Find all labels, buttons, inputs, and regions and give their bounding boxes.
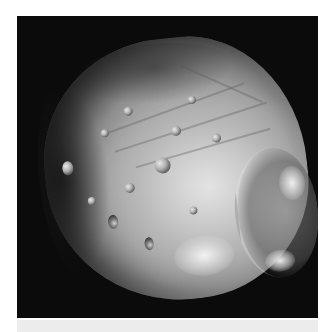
shadow-limb (29, 76, 120, 282)
crater (171, 125, 182, 136)
bottom-strip (17, 320, 318, 332)
crater (107, 214, 118, 229)
moon-body (32, 25, 318, 313)
crater (144, 237, 154, 251)
photo-frame (17, 16, 318, 318)
crater (189, 206, 198, 215)
crater (154, 157, 172, 175)
crater (100, 129, 109, 138)
crater (187, 96, 196, 105)
groove (114, 102, 267, 153)
bright-region (172, 233, 236, 279)
crater (123, 106, 133, 116)
shadow-region (72, 35, 237, 111)
crater (124, 182, 135, 193)
